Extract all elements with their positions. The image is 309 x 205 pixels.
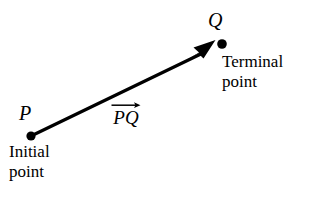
point-label-q: Q — [208, 10, 222, 30]
vector-notation-pq: PQ — [111, 101, 141, 127]
initial-point-dot — [26, 131, 35, 140]
vector-arrowhead — [187, 40, 216, 60]
terminal-point-caption: Terminal point — [222, 52, 283, 92]
initial-point-caption: Initial point — [9, 142, 50, 182]
vector-notation-label: PQ — [113, 108, 138, 127]
terminal-point-caption-line-2: point — [222, 72, 283, 92]
initial-point-caption-line-1: Initial — [9, 142, 50, 162]
vector-diagram-figure: P Q Initial point Terminal point PQ — [0, 0, 309, 205]
point-label-p: P — [19, 103, 31, 123]
terminal-point-caption-line-1: Terminal — [222, 52, 283, 72]
terminal-point-dot — [217, 39, 227, 49]
initial-point-caption-line-2: point — [9, 162, 50, 182]
